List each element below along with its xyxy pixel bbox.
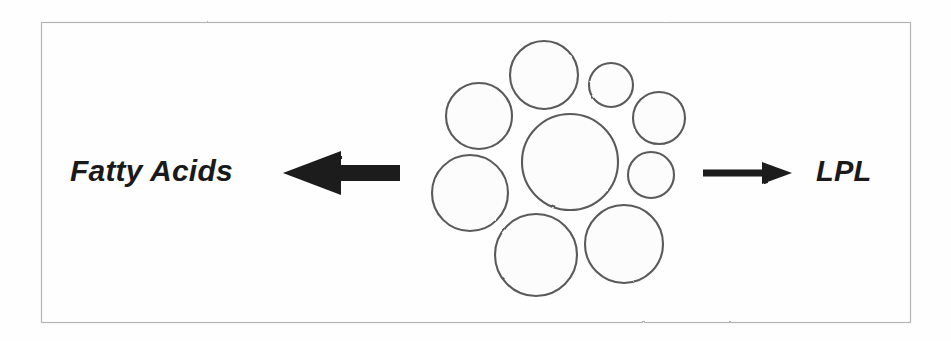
fatty-acids-label: Fatty Acids (70, 154, 233, 188)
droplet-right-lower (628, 152, 674, 198)
droplet-left-upper (446, 83, 512, 149)
droplet-right-upper (633, 92, 685, 144)
droplet-left-lower (432, 155, 508, 231)
left-arrow (283, 151, 400, 195)
droplet-bottom-right (585, 205, 663, 283)
right-arrow-shape (703, 162, 792, 184)
droplet-bottom-left (495, 214, 577, 296)
right-arrow (703, 162, 792, 184)
droplet-top (510, 41, 578, 109)
droplet-top-right (589, 63, 633, 107)
lipid-droplet-cluster (432, 41, 685, 296)
droplet-core (522, 114, 618, 210)
figure-canvas: Fatty Acids LPL (0, 0, 951, 341)
left-arrow-shape (283, 151, 400, 195)
lpl-label: LPL (816, 155, 871, 188)
